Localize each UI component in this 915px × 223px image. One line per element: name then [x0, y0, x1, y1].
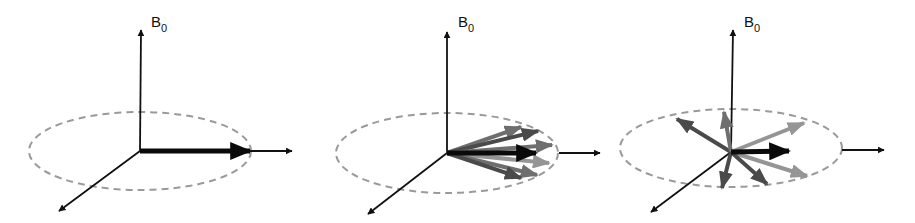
z-axis-arrow [731, 30, 733, 152]
spin-vector [731, 123, 804, 152]
b0-label: B0 [151, 13, 167, 34]
panel-in-phase: B0 [29, 13, 292, 211]
b0-label: B0 [744, 13, 760, 34]
net-magnetization-vector [731, 151, 789, 152]
spin-vector [724, 112, 731, 152]
dephasing-diagram: B0 B0 B0 [0, 0, 915, 223]
panel-dephased: B0 [620, 13, 884, 212]
spin-vector [677, 119, 731, 152]
y-axis-arrow [368, 153, 447, 214]
z-axis-arrow [140, 30, 141, 151]
y-axis-arrow [651, 152, 731, 212]
diagram-canvas: B0 B0 B0 [0, 0, 915, 223]
panel-partially-dephased: B0 [336, 13, 600, 214]
b0-label: B0 [458, 13, 474, 34]
